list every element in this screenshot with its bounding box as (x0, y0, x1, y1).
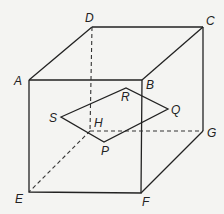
quadrilateral-PQRS (61, 88, 168, 142)
label-Q: Q (171, 103, 180, 117)
label-F: F (142, 195, 150, 209)
edge-CB (142, 27, 203, 80)
cube-diagram: A B C D E F G H P Q R S (0, 0, 224, 214)
label-H: H (94, 116, 103, 130)
label-E: E (15, 192, 24, 206)
label-G: G (207, 126, 216, 140)
label-B: B (146, 78, 154, 92)
hidden-edge-HE (29, 131, 90, 192)
edge-GF (141, 131, 203, 193)
label-C: C (206, 14, 215, 28)
label-D: D (85, 11, 94, 25)
edge-AD (29, 27, 92, 80)
label-P: P (101, 144, 109, 158)
label-A: A (13, 74, 22, 88)
label-R: R (121, 90, 130, 104)
label-S: S (49, 111, 57, 125)
hidden-edge-DH (90, 27, 92, 131)
